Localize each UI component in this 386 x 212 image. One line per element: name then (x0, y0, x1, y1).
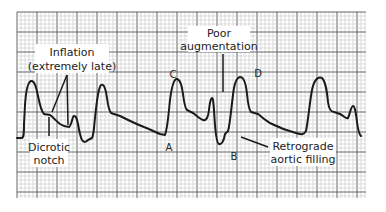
waveform-diagram: Inflation (extremely late) Poor augmenta… (0, 0, 386, 212)
retrograde-annotation: Retrograde aortic filling (241, 137, 336, 166)
point-label-b: B (231, 151, 238, 162)
inflation-label-line1: Inflation (50, 46, 95, 59)
retrograde-line1: Retrograde (272, 140, 333, 153)
poor-augmentation-line2: augmentation (180, 40, 257, 53)
inflation-pointer-line-2 (67, 75, 68, 125)
point-label-c: C (170, 69, 177, 80)
dicrotic-notch-annotation: Dicrotic notch (28, 117, 70, 167)
retrograde-line2: aortic filling (271, 153, 336, 166)
point-label-a: A (166, 142, 173, 153)
dicrotic-notch-line1: Dicrotic (28, 141, 70, 154)
point-label-d: D (254, 68, 262, 79)
poor-augmentation-line1: Poor (207, 27, 232, 40)
inflation-label-line2: (extremely late) (28, 60, 116, 73)
dicrotic-notch-line2: notch (33, 154, 64, 167)
poor-augmentation-annotation: Poor augmentation (180, 26, 257, 92)
